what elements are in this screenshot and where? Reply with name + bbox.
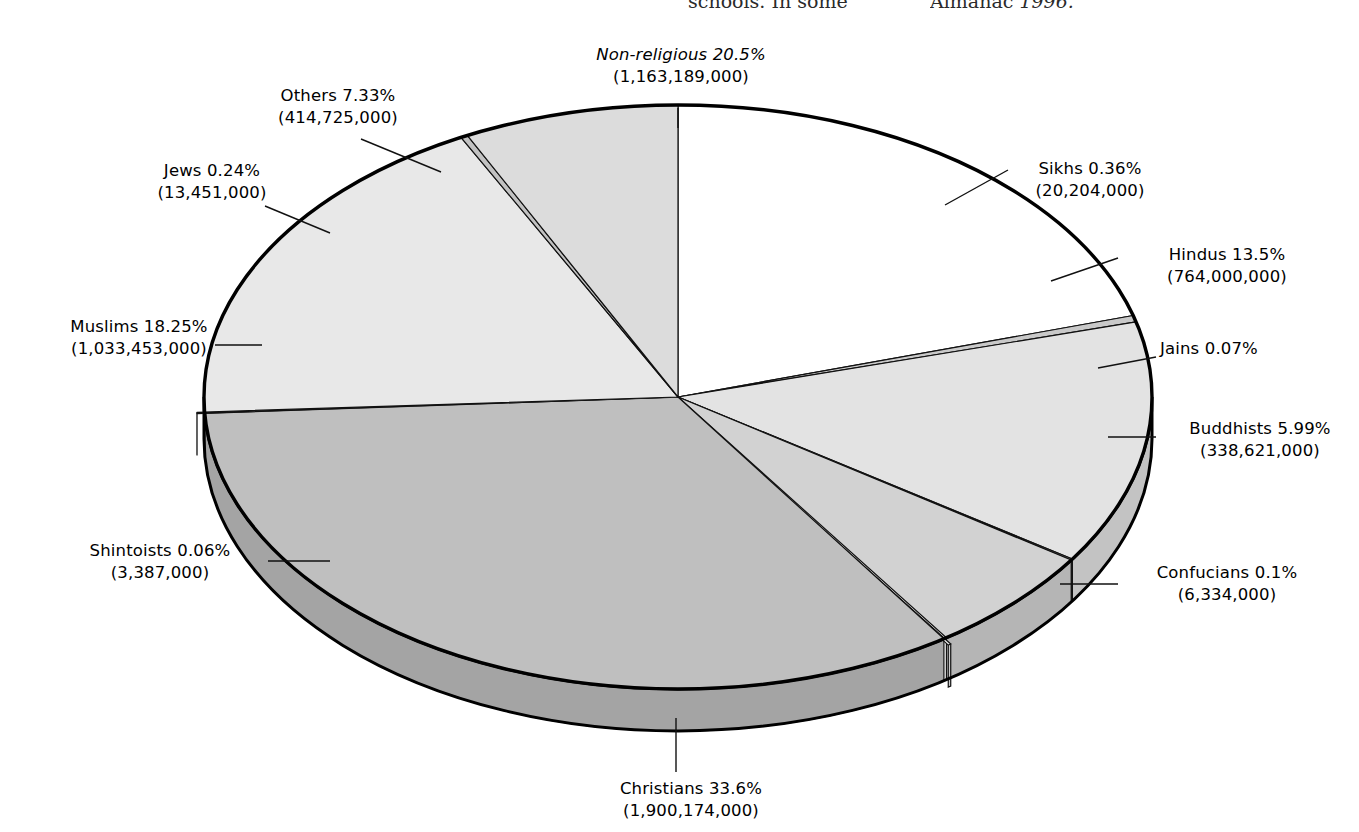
- pie-chart-graphic: [0, 0, 1359, 832]
- slice-label-jews-title: Jews 0.24%: [112, 160, 312, 182]
- slice-label-shintoists: Shintoists 0.06% (3,387,000): [36, 540, 284, 584]
- slice-label-shintoists-title: Shintoists 0.06%: [36, 540, 284, 562]
- slice-label-jains: Jains 0.07%: [1160, 338, 1340, 360]
- slice-label-nonreligious-count: (1,163,189,000): [536, 66, 826, 88]
- slice-label-muslims: Muslims 18.25% (1,033,453,000): [24, 316, 254, 360]
- pie-slice-side-confucians: [948, 644, 950, 687]
- slice-label-others-title: Others 7.33%: [228, 85, 448, 107]
- slice-label-shintoists-count: (3,387,000): [36, 562, 284, 584]
- slice-label-jews-count: (13,451,000): [112, 182, 312, 204]
- slice-label-muslims-title: Muslims 18.25%: [24, 316, 254, 338]
- slice-label-jains-title: Jains 0.07%: [1160, 338, 1340, 360]
- slice-label-confucians: Confucians 0.1% (6,334,000): [1122, 562, 1332, 606]
- slice-label-muslims-count: (1,033,453,000): [24, 338, 254, 360]
- slice-label-hindus-count: (764,000,000): [1122, 266, 1332, 288]
- slice-label-others: Others 7.33% (414,725,000): [228, 85, 448, 129]
- slice-label-jews: Jews 0.24% (13,451,000): [112, 160, 312, 204]
- slice-label-confucians-count: (6,334,000): [1122, 584, 1332, 606]
- slice-label-buddhists: Buddhists 5.99% (338,621,000): [1160, 418, 1359, 462]
- slice-label-hindus-title: Hindus 13.5%: [1122, 244, 1332, 266]
- slice-label-others-count: (414,725,000): [228, 107, 448, 129]
- slice-label-christians-title: Christians 33.6%: [556, 778, 826, 800]
- slice-label-christians: Christians 33.6% (1,900,174,000): [556, 778, 826, 822]
- slice-label-sikhs-count: (20,204,000): [990, 180, 1190, 202]
- slice-label-sikhs: Sikhs 0.36% (20,204,000): [990, 158, 1190, 202]
- slice-label-nonreligious: Non-religious 20.5% (1,163,189,000): [536, 44, 826, 88]
- slice-label-buddhists-title: Buddhists 5.99%: [1160, 418, 1359, 440]
- chart-canvas: schools. In some Almanac 1996.: [0, 0, 1359, 832]
- slice-label-sikhs-title: Sikhs 0.36%: [990, 158, 1190, 180]
- slice-label-confucians-title: Confucians 0.1%: [1122, 562, 1332, 584]
- slice-label-hindus: Hindus 13.5% (764,000,000): [1122, 244, 1332, 288]
- slice-label-christians-count: (1,900,174,000): [556, 800, 826, 822]
- slice-label-nonreligious-title: Non-religious 20.5%: [536, 44, 826, 66]
- slice-label-buddhists-count: (338,621,000): [1160, 440, 1359, 462]
